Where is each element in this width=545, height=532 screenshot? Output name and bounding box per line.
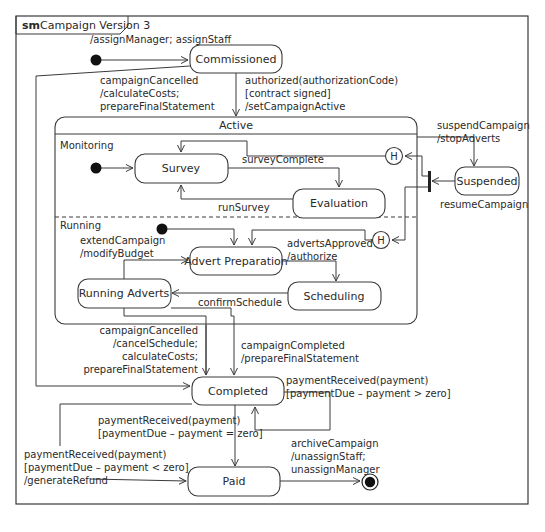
- transition-label: extendCampaign: [80, 235, 165, 246]
- state-commissioned[interactable]: Commissioned: [190, 45, 282, 73]
- region-label-monitoring: Monitoring: [60, 140, 113, 151]
- transition-label: campaignCompleted: [241, 340, 345, 351]
- state-suspended[interactable]: Suspended: [455, 167, 519, 195]
- state-label: Active: [219, 119, 253, 132]
- initial-pseudostate-icon: [157, 224, 168, 235]
- history-monitoring: H: [386, 148, 403, 165]
- frame-keyword: sm: [22, 19, 40, 32]
- transition-label: resumeCampaign: [440, 199, 528, 210]
- transition-label: unassignManager: [291, 464, 380, 475]
- frame-title: Campaign Version 3: [40, 19, 150, 32]
- state-survey[interactable]: Survey: [135, 154, 228, 183]
- transition-label: prepareFinalStatement: [83, 364, 198, 375]
- initial-pseudostate-icon: [91, 55, 102, 66]
- transition-label: confirmSchedule: [198, 297, 282, 308]
- transition-label: [paymentDue – payment < zero]: [24, 462, 189, 473]
- state-label: Survey: [162, 162, 201, 175]
- transition-label: /authorize: [287, 251, 338, 262]
- svg-text:H: H: [377, 235, 385, 246]
- transition-label: paymentReceived(payment): [286, 375, 428, 386]
- state-label: Paid: [223, 475, 246, 488]
- state-evaluation[interactable]: Evaluation: [293, 189, 385, 218]
- fork-bar: [428, 171, 431, 192]
- transition-label: campaignCancelled: [100, 325, 198, 336]
- transition-label-assign: /assignManager; assignStaff: [90, 34, 232, 45]
- transition-label: [contract signed]: [245, 88, 331, 99]
- state-label: Completed: [208, 385, 268, 398]
- transition-label: /generateRefund: [24, 475, 108, 486]
- state-label: Suspended: [456, 175, 517, 188]
- state-label: Evaluation: [310, 197, 368, 210]
- state-advert-preparation[interactable]: Advert Preparation: [184, 247, 287, 275]
- state-paid[interactable]: Paid: [188, 467, 280, 496]
- transition-label: [paymentDue – payment = zero]: [98, 428, 263, 439]
- state-label: Commissioned: [196, 53, 277, 66]
- transition-label: prepareFinalStatement: [100, 101, 215, 112]
- state-running-adverts[interactable]: Running Adverts: [78, 279, 171, 308]
- transition-label: /modifyBudget: [80, 248, 154, 259]
- svg-text:H: H: [390, 151, 398, 162]
- transition-label: runSurvey: [218, 202, 270, 213]
- transition-label: /stopAdverts: [437, 133, 500, 144]
- state-scheduling[interactable]: Scheduling: [288, 282, 381, 310]
- initial-pseudostate-icon: [91, 163, 102, 174]
- state-label: Advert Preparation: [184, 255, 287, 268]
- state-completed[interactable]: Completed: [192, 377, 284, 405]
- region-label-running: Running: [60, 220, 101, 231]
- transition-label: /calculateCosts;: [100, 88, 179, 99]
- transition-label: calculateCosts;: [122, 351, 198, 362]
- transition-label: advertsApproved: [287, 238, 373, 249]
- state-label: Scheduling: [304, 290, 365, 303]
- transition-label: /unassignStaff;: [291, 451, 366, 462]
- transition-label: campaignCancelled: [100, 75, 198, 86]
- state-label: Running Adverts: [79, 287, 170, 300]
- transition-label: /prepareFinalStatement: [241, 353, 359, 364]
- transition-label: archiveCampaign: [291, 438, 379, 449]
- history-running: H: [373, 232, 390, 249]
- state-machine-diagram: sm Campaign Version 3 /assignManager; as…: [0, 0, 545, 532]
- transition-label: [paymentDue – payment > zero]: [286, 388, 451, 399]
- transition-label: suspendCampaign: [437, 120, 530, 131]
- transition-label: paymentReceived(payment): [98, 415, 240, 426]
- final-state-icon: [362, 474, 378, 490]
- transition-label: paymentReceived(payment): [24, 449, 166, 460]
- transition-label: /cancelSchedule;: [113, 338, 198, 349]
- transition-label: /setCampaignActive: [245, 101, 345, 112]
- transition-label: authorized(authorizationCode): [245, 75, 398, 86]
